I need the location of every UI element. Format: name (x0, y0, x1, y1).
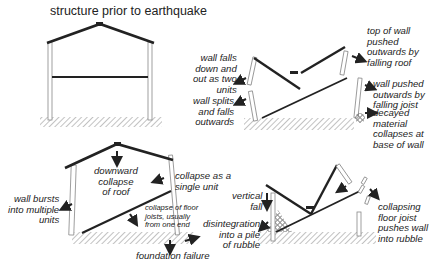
floor-joist-collapsing (276, 191, 360, 232)
label-downward-collapse: downward collapse of roof (94, 166, 138, 198)
decayed-material (355, 113, 365, 123)
ground-hatch (244, 118, 354, 130)
fallen-joist (262, 78, 347, 118)
label-single-unit: collapse as a single unit (175, 171, 231, 192)
label-wall-falls: wall falls down and out as two units (193, 53, 237, 95)
roof-right (311, 165, 337, 214)
wall-top-fallen (336, 164, 352, 184)
ridge (96, 22, 103, 26)
wall-remnant (357, 212, 361, 236)
wall-vertical (271, 193, 275, 241)
left-wall-burst (69, 165, 76, 235)
label-disintegration: disintegration into a pile of rubble (203, 219, 260, 251)
label-floor-joists: collapse of floor joists, usually from o… (145, 204, 198, 230)
right-wall (148, 42, 152, 120)
label-foundation-failure: foundation failure (136, 251, 210, 262)
label-collapsing-joist: collapsing floor joist pushes wall into … (378, 202, 428, 244)
diagram-title: structure prior to earthquake (50, 4, 207, 18)
label-top-of-wall: top of wall pushed outwards by falling r… (367, 26, 419, 68)
ground-hatch (40, 117, 162, 127)
wall-pushed (354, 78, 362, 118)
panel-rubble (258, 164, 376, 244)
wall-upper-unit (247, 57, 257, 85)
rubble-pile (266, 210, 292, 232)
label-wall-bursts: wall bursts into multiple units (8, 194, 59, 226)
label-decayed-material: decayed material collapses at base of wa… (373, 108, 424, 150)
label-wall-pushed: wall pushed outwards by falling joist (373, 79, 425, 111)
roof (47, 24, 154, 43)
label-wall-splits: wall splits and falls outwards (193, 96, 234, 128)
left-wall (48, 42, 52, 120)
label-vertical-fall: vertical fall (232, 191, 262, 212)
wall-split (248, 91, 257, 121)
wall-top-pushed (340, 51, 348, 75)
panel-intact-structure (40, 22, 162, 127)
roof-right-half (301, 47, 345, 73)
panel-wall-failures (238, 47, 373, 130)
